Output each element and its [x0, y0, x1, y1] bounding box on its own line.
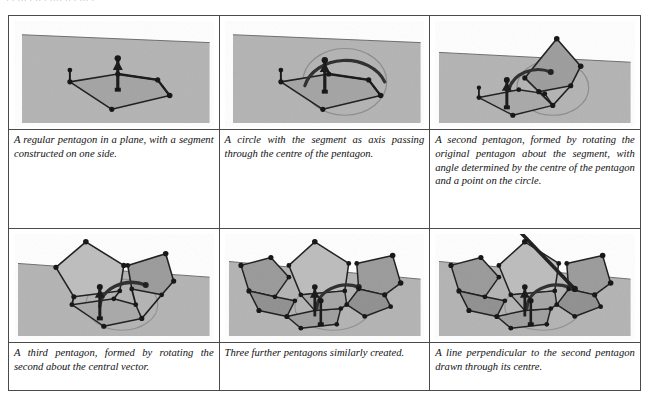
figure-caption-5: Three further pentagons similarly create… — [220, 342, 430, 364]
second-pentagon-rotated-about-segment-figure — [430, 16, 640, 129]
figure-caption-4: A third pentagon, formed by rotating the… — [9, 342, 219, 378]
table-row-top: A regular pentagon in a plane, with a se… — [9, 16, 641, 229]
figure-caption-6: A line perpendicular to the second penta… — [430, 342, 640, 378]
figure-cell-5: Three further pentagons similarly create… — [219, 229, 430, 391]
pentagon-in-plane-with-segment-figure — [9, 16, 219, 129]
figure-caption-1: A regular pentagon in a plane, with a se… — [9, 129, 219, 165]
figure-cell-1: A regular pentagon in a plane, with a se… — [9, 16, 220, 229]
page-top-text-remnant: · · ··· · ·· · ···· ·· · ··· · — [0, 0, 645, 8]
figure-caption-3: A second pentagon, formed by rotating th… — [430, 129, 640, 192]
figure-cell-2: A circle with the segment as axis passin… — [219, 16, 430, 229]
top-remnant-text: · · ··· · ·· · ···· ·· · ··· · — [6, 0, 94, 5]
figure-caption-2: A circle with the segment as axis passin… — [220, 129, 430, 165]
third-pentagon-rotated-about-central-vector-figure — [9, 229, 219, 342]
perpendicular-line-through-centre-figure — [430, 229, 640, 342]
figure-grid-table: A regular pentagon in a plane, with a se… — [8, 15, 641, 391]
circle-with-segment-as-axis-figure — [220, 16, 430, 129]
figure-cell-3: A second pentagon, formed by rotating th… — [430, 16, 641, 229]
figure-cell-6: A line perpendicular to the second penta… — [430, 229, 641, 391]
table-row-bottom: A third pentagon, formed by rotating the… — [9, 229, 641, 391]
figure-cell-4: A third pentagon, formed by rotating the… — [9, 229, 220, 391]
three-further-pentagons-figure — [220, 229, 430, 342]
